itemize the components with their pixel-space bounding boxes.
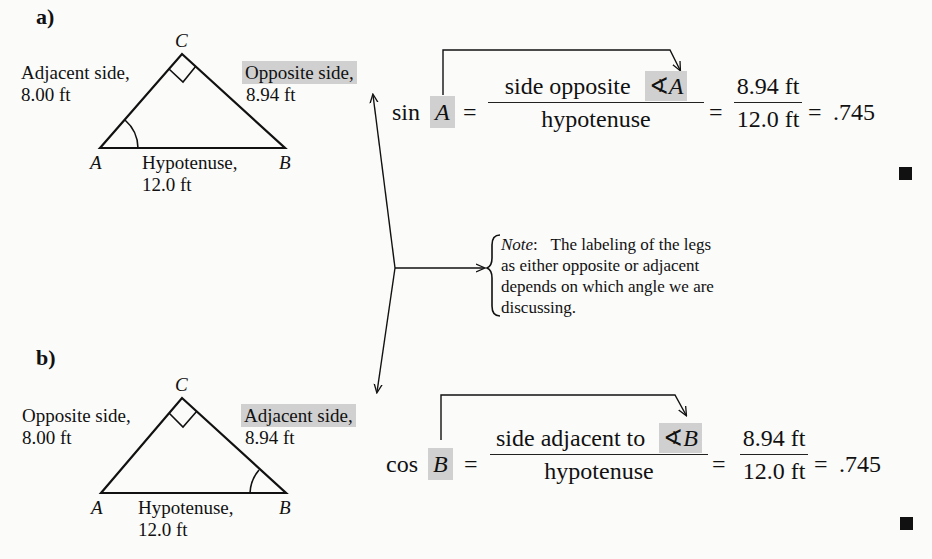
cos-angle-highlight: B <box>428 448 453 480</box>
vertex-c-a: C <box>175 30 188 52</box>
cos-value-fraction: 8.94 ft 12.0 ft <box>740 424 808 485</box>
left-leg-label-b: Opposite side, 8.00 ft <box>22 405 131 449</box>
sin-result: .745 <box>833 98 875 126</box>
sin-equals-3: = <box>808 98 822 126</box>
vertex-b-b: B <box>279 497 291 519</box>
left-leg-label-a: Adjacent side, 8.00 ft <box>21 62 130 106</box>
vertex-a-a: A <box>90 152 102 174</box>
cos-result: .745 <box>839 450 881 478</box>
angle-symbol-icon: ∢ <box>663 425 683 451</box>
cos-ratio-fraction: side adjacent to ∢B hypotenuse <box>490 424 708 485</box>
part-a-label: a) <box>36 4 54 30</box>
sin-angle-ref-highlight: ∢A <box>645 71 688 101</box>
cos-function: cos <box>386 450 418 478</box>
cos-angle-ref-highlight: ∢B <box>659 423 702 453</box>
note-brace-icon <box>487 235 500 316</box>
right-leg-label-b: Adjacent side, 8.94 ft <box>241 405 356 449</box>
sin-value-fraction: 8.94 ft 12.0 ft <box>734 72 802 133</box>
vertex-b-a: B <box>279 152 291 174</box>
part-b-label: b) <box>36 345 56 371</box>
sin-equals-1: = <box>463 98 477 126</box>
cos-equals-3: = <box>814 450 828 478</box>
cos-equals-2: = <box>712 450 726 478</box>
hypotenuse-label-a: Hypotenuse, 12.0 ft <box>142 152 238 196</box>
sin-angle-highlight: A <box>430 96 455 128</box>
vertex-a-b: A <box>91 497 103 519</box>
end-of-proof-square-a <box>899 167 912 180</box>
end-of-proof-square-b <box>900 517 913 530</box>
right-leg-label-a: Opposite side, 8.94 ft <box>242 62 357 106</box>
sin-function: sin <box>392 98 420 126</box>
sin-equals-2: = <box>709 98 723 126</box>
note-text: Note: The labeling of the legs as either… <box>501 234 714 318</box>
vertex-c-b: C <box>175 374 188 396</box>
sin-ratio-fraction: side opposite ∢A hypotenuse <box>488 72 704 133</box>
cos-equals-1: = <box>464 450 478 478</box>
angle-symbol-icon: ∢ <box>649 73 669 99</box>
hypotenuse-label-b: Hypotenuse, 12.0 ft <box>138 497 234 541</box>
branch-arrows <box>373 95 484 392</box>
